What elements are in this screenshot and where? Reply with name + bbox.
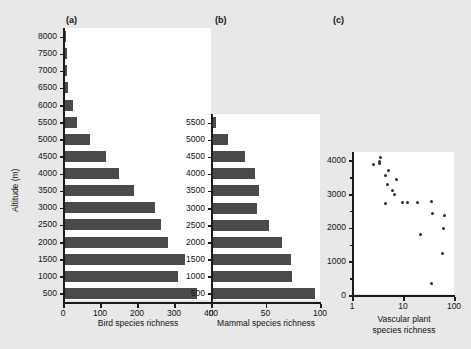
- x-tick-b-50: [266, 304, 268, 308]
- bar-a-6000: [65, 100, 73, 111]
- bar-a-2500: [65, 219, 162, 230]
- panel-a-x-axis-title: Bird species richness: [63, 318, 213, 328]
- y-tick-label-a-6500: 6500: [19, 83, 57, 92]
- x-tick-label-c-10: 10: [388, 302, 418, 311]
- y-tick-label-c-0: 0: [308, 291, 346, 300]
- y-tick-label-a-4500: 4500: [19, 152, 57, 161]
- scatter-point-11: [401, 201, 404, 204]
- bar-b-500: [213, 288, 315, 299]
- bar-a-8000: [65, 31, 67, 42]
- y-tick-label-b-3500: 3500: [167, 186, 205, 195]
- x-tick-c-1: [352, 297, 354, 301]
- y-tick-label-c-1000: 1000: [308, 257, 346, 266]
- panel-b-x-axis-title: Mammal species richness: [206, 318, 326, 328]
- scatter-point-8: [391, 189, 394, 192]
- y-tick-label-c-4000: 4000: [308, 156, 346, 165]
- panel-c-x-axis-title-line1: Vascular plant: [348, 314, 460, 324]
- x-tick-label-c-100: 100: [439, 302, 469, 311]
- scatter-point-17: [419, 233, 422, 236]
- x-tick-label-a-300: 300: [159, 309, 189, 318]
- bar-b-1000: [213, 271, 293, 282]
- bar-a-5500: [65, 117, 78, 128]
- x-tick-label-a-100: 100: [85, 309, 115, 318]
- y-tick-label-a-8000: 8000: [19, 32, 57, 41]
- y-tick-label-a-4000: 4000: [19, 169, 57, 178]
- scatter-point-13: [416, 201, 419, 204]
- x-tick-b-0: [211, 304, 213, 308]
- bar-a-3000: [65, 202, 156, 213]
- x-tick-label-b-50: 50: [251, 309, 281, 318]
- y-tick-label-a-1500: 1500: [19, 255, 57, 264]
- x-tick-label-a-200: 200: [122, 309, 152, 318]
- bar-b-2500: [213, 220, 270, 231]
- panel-b-label: (b): [215, 15, 227, 25]
- panel-c-x-axis-title-line2: species richness: [348, 325, 460, 335]
- scatter-point-15: [431, 212, 434, 215]
- bar-b-3000: [213, 203, 258, 214]
- y-tick-label-a-5500: 5500: [19, 118, 57, 127]
- bar-a-4000: [65, 168, 120, 179]
- panel-c-label: (c): [333, 15, 344, 25]
- x-tick-c-100: [454, 297, 456, 301]
- x-tick-a-0: [63, 304, 65, 308]
- y-tick-label-a-3500: 3500: [19, 186, 57, 195]
- x-tick-a-100: [100, 304, 102, 308]
- scatter-point-6: [395, 178, 398, 181]
- y-tick-label-b-4500: 4500: [167, 152, 205, 161]
- bar-b-3500: [213, 185, 260, 196]
- bar-a-6500: [65, 82, 69, 93]
- bar-b-5500: [213, 117, 216, 128]
- y-tick-label-a-500: 500: [19, 289, 57, 298]
- y-tick-label-a-5000: 5000: [19, 135, 57, 144]
- y-tick-label-c-2000: 2000: [308, 223, 346, 232]
- bar-a-5000: [65, 134, 90, 145]
- bar-a-3500: [65, 185, 135, 196]
- y-tick-label-a-3000: 3000: [19, 203, 57, 212]
- y-tick-label-b-1000: 1000: [167, 272, 205, 281]
- x-tick-label-b-0: 0: [196, 309, 226, 318]
- y-tick-label-b-1500: 1500: [167, 255, 205, 264]
- x-tick-label-a-0: 0: [48, 309, 78, 318]
- y-tick-label-a-7000: 7000: [19, 66, 57, 75]
- bar-b-2000: [213, 237, 283, 248]
- y-tick-label-c-3000: 3000: [308, 190, 346, 199]
- x-tick-label-b-100: 100: [305, 309, 335, 318]
- bar-b-4000: [213, 168, 256, 179]
- y-tick-label-a-7500: 7500: [19, 49, 57, 58]
- bar-a-4500: [65, 151, 106, 162]
- x-tick-a-200: [137, 304, 139, 308]
- bar-a-7500: [65, 48, 67, 59]
- y-tick-label-b-2000: 2000: [167, 238, 205, 247]
- panel-b-x-axis-line: [211, 302, 321, 304]
- x-tick-a-300: [174, 304, 176, 308]
- x-tick-c-10: [403, 297, 405, 301]
- y-tick-label-b-5500: 5500: [167, 118, 205, 127]
- y-tick-label-a-2000: 2000: [19, 238, 57, 247]
- figure-container: (a) Altitude (m) 80007500700065006000550…: [0, 0, 471, 349]
- y-tick-label-b-2500: 2500: [167, 221, 205, 230]
- panel-c-y-axis-line: [352, 152, 354, 296]
- x-tick-b-100: [320, 304, 322, 308]
- y-tick-label-b-5000: 5000: [167, 135, 205, 144]
- y-tick-label-a-2500: 2500: [19, 220, 57, 229]
- y-tick-label-a-6000: 6000: [19, 101, 57, 110]
- bar-a-2000: [65, 237, 169, 248]
- panel-c-x-axis-line: [352, 295, 455, 297]
- panel-a-x-axis-line: [63, 302, 212, 304]
- bar-b-5000: [213, 134, 228, 145]
- y-tick-label-b-3000: 3000: [167, 204, 205, 213]
- x-tick-label-c-1: 1: [337, 302, 367, 311]
- bar-b-4500: [213, 151, 246, 162]
- panel-b-y-axis-line: [211, 114, 213, 303]
- panel-a-y-axis-line: [63, 28, 65, 303]
- y-tick-label-a-1000: 1000: [19, 272, 57, 281]
- panel-a-label: (a): [66, 15, 77, 25]
- scatter-point-12: [406, 201, 409, 204]
- y-tick-label-b-500: 500: [167, 289, 205, 298]
- scatter-point-18: [442, 227, 445, 230]
- bar-a-1000: [65, 271, 179, 282]
- bar-a-7000: [65, 65, 68, 76]
- bar-b-1500: [213, 254, 291, 265]
- panel-c-plot-area: [352, 152, 454, 294]
- y-tick-label-b-4000: 4000: [167, 169, 205, 178]
